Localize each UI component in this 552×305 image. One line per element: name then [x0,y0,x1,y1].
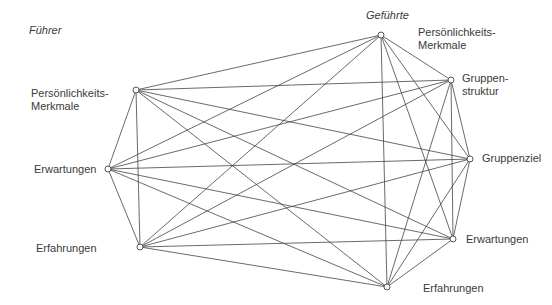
leader-group-title: Führer [29,24,61,37]
edge-R3-R4 [453,159,470,239]
edge-L1-R2 [136,80,451,90]
label-follower-experience: Erfahrungen [423,282,484,295]
label-leader-experience: Erfahrungen [36,242,97,255]
nodes [105,32,473,290]
edge-L2-R3 [108,159,470,169]
label-follower-personality: Persönlichkeits- Merkmale [418,26,496,52]
label-group-structure: Gruppen- struktur [462,72,508,98]
edge-L2-R1 [108,35,381,169]
node-R1 [378,32,384,38]
edges [108,35,470,287]
node-L2 [105,166,111,172]
edge-L1-R1 [136,35,381,90]
edge-R4-R5 [387,239,453,287]
node-L1 [133,87,139,93]
edge-L3-R2 [140,80,451,247]
label-leader-personality: Persönlichkeits- Merkmale [31,87,109,113]
edge-R1-R3 [381,35,470,159]
edge-L2-R4 [108,169,453,239]
edge-L2-R5 [108,169,387,287]
label-follower-expectations: Erwartungen [466,233,528,246]
label-group-goal: Gruppenziel [482,152,541,165]
edge-L3-R5 [140,247,387,287]
node-R3 [467,156,473,162]
edge-L1-R5 [136,90,387,287]
follower-group-title: Geführte [366,9,409,22]
node-L3 [137,244,143,250]
edge-L1-R4 [136,90,453,239]
edge-L3-R4 [140,239,453,247]
node-R5 [384,284,390,290]
label-leader-expectations: Erwartungen [34,163,96,176]
edge-R2-R5 [387,80,451,287]
node-R4 [450,236,456,242]
node-R2 [448,77,454,83]
edge-R1-R4 [381,35,453,239]
